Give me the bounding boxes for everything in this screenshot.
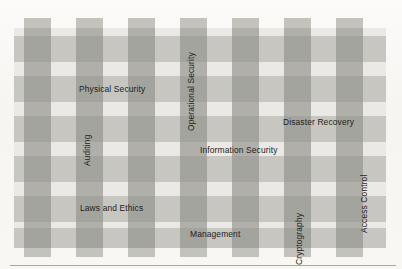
label-access-control: Access Control bbox=[360, 175, 368, 233]
label-information-security: Information Security bbox=[200, 146, 277, 154]
stripe-crossing-overlay bbox=[128, 28, 155, 248]
label-cryptography: Cryptography bbox=[295, 213, 303, 265]
stripe-crossing-overlay bbox=[232, 28, 259, 248]
stripe-crossing-overlay bbox=[24, 28, 51, 248]
plaid-diagram-figure: Physical Security Operational Security D… bbox=[0, 0, 402, 269]
label-laws-and-ethics: Laws and Ethics bbox=[80, 204, 143, 212]
bottom-divider bbox=[10, 265, 396, 266]
label-physical-security: Physical Security bbox=[79, 85, 145, 93]
plaid-pattern: Physical Security Operational Security D… bbox=[14, 18, 386, 257]
label-disaster-recovery: Disaster Recovery bbox=[283, 118, 354, 126]
label-auditing: Auditing bbox=[83, 135, 91, 166]
label-management: Management bbox=[190, 230, 240, 238]
label-operational-security: Operational Security bbox=[187, 52, 195, 131]
